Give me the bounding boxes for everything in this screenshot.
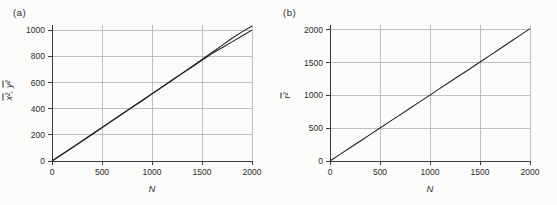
x-tick-label: 500 [95,167,109,177]
x-tick-label: 1500 [193,167,212,177]
x-tick-label: 1000 [143,167,162,177]
x-tick-label: 2000 [243,167,262,177]
x-tick-label: 1000 [421,167,440,177]
x-tick-label: 2000 [521,167,540,177]
chart-a-ylabel-separator: , [4,88,14,93]
y-tick-label: 600 [31,78,45,88]
chart-b-ylabel: r² [281,51,294,141]
x-tick-label: 500 [373,167,387,177]
panel-b-label: (b) [283,7,296,18]
y-tick-label: 200 [31,130,45,140]
x-tick-label: 0 [328,167,333,177]
chart-b-ylabel-r2: r² [281,93,292,99]
panel-a-label: (a) [13,7,26,18]
chart-a-xlabel: N [132,183,172,194]
y-tick-label: 400 [31,104,45,114]
plots-canvas: 0500100015002000020040060080010000500100… [0,0,557,205]
y-tick-label: 1000 [304,90,323,100]
chart-a-ylabel-y2: y² [3,81,14,89]
x-tick-label: 1500 [471,167,490,177]
x-tick-label: 0 [50,167,55,177]
y-tick-label: 0 [40,156,45,166]
figure: 0500100015002000020040060080010000500100… [0,0,557,205]
chart-a-ylabel-x2: x² [3,93,14,101]
y-tick-label: 500 [309,123,323,133]
chart-b-xlabel: N [410,183,450,194]
y-tick-label: 1000 [26,25,45,35]
y-tick-label: 0 [318,156,323,166]
y-tick-label: 1500 [304,58,323,68]
chart-a-ylabel: x², y² [3,46,16,136]
y-tick-label: 2000 [304,25,323,35]
y-tick-label: 800 [31,51,45,61]
